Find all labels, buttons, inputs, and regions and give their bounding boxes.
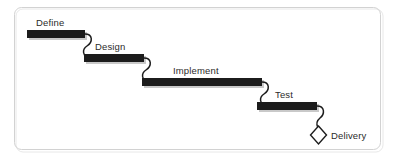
milestone-label-delivery: Delivery: [331, 130, 367, 141]
delivery-diamond-icon: [311, 126, 327, 144]
phase-bar-define: [27, 30, 85, 38]
phase-label-define: Define: [36, 17, 64, 28]
phase-bar-implement: [142, 78, 262, 86]
phase-label-test: Test: [275, 89, 293, 100]
phase-label-design: Design: [95, 41, 125, 52]
phase-bar-design: [84, 54, 144, 62]
waterfall-svg: Define Design Implement Test Delivery: [0, 0, 396, 158]
phase-label-implement: Implement: [173, 65, 219, 76]
phase-bar-test: [257, 102, 317, 110]
waterfall-diagram: Define Design Implement Test Delivery: [0, 0, 396, 158]
